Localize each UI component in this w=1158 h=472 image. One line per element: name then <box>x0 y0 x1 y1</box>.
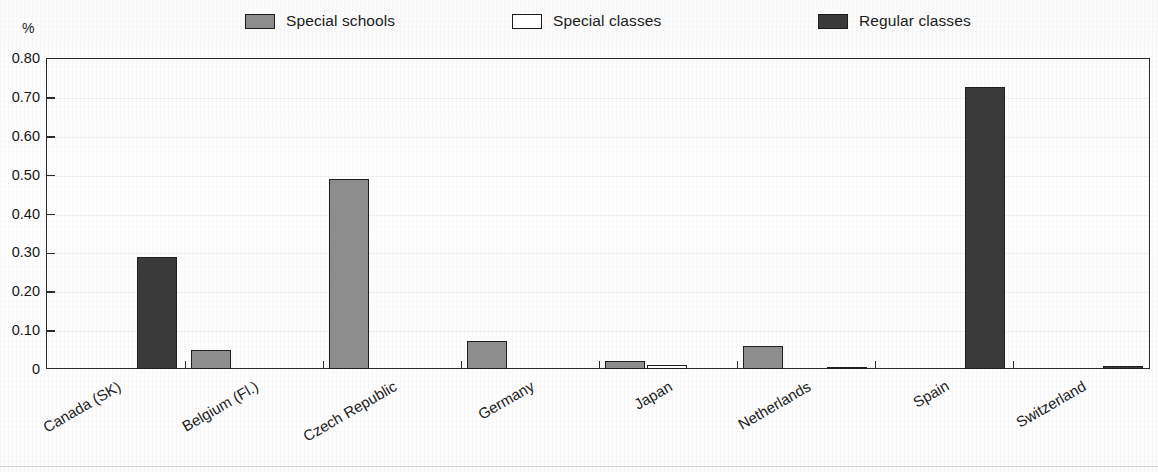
y-axis-tick <box>47 175 55 177</box>
y-axis-tick <box>47 97 55 99</box>
y-axis-tick-label: 0.40 <box>0 206 40 222</box>
chart-legend: Special schools Special classes Regular … <box>0 0 1158 42</box>
x-axis-label-canada-sk: Canada (SK) <box>40 377 124 435</box>
y-axis-unit-label: % <box>22 20 34 36</box>
legend-label-regular-classes: Regular classes <box>859 12 971 30</box>
x-axis-label-belgium-fl: Belgium (Fl.) <box>179 377 261 434</box>
x-axis-label-czech-republic: Czech Republic <box>300 377 399 444</box>
y-axis-tick <box>47 253 55 255</box>
x-axis-category-labels: Canada (SK)Belgium (Fl.)Czech RepublicGe… <box>46 369 1150 472</box>
y-axis-tick <box>47 136 55 138</box>
x-axis-tick <box>323 361 324 368</box>
footer-divider <box>0 466 1158 467</box>
legend-label-special-schools: Special schools <box>286 12 395 30</box>
legend-item-regular-classes: Regular classes <box>818 12 971 30</box>
gridline <box>47 215 1149 216</box>
gridline <box>47 98 1149 99</box>
y-axis-tick-label: 0 <box>0 361 40 377</box>
legend-item-special-schools: Special schools <box>245 12 395 30</box>
gridline <box>47 253 1149 254</box>
legend-swatch-special-classes <box>512 14 542 29</box>
x-axis-tick <box>185 361 186 368</box>
x-axis-label-japan: Japan <box>631 377 675 412</box>
gridline <box>47 292 1149 293</box>
x-axis-tick <box>1013 361 1014 368</box>
x-axis-tick <box>461 361 462 368</box>
gridlines <box>47 59 1149 368</box>
y-axis-tick-label: 0.80 <box>0 50 40 66</box>
y-axis-tick-label: 0.10 <box>0 322 40 338</box>
x-axis-label-germany: Germany <box>475 377 537 423</box>
y-axis-tick-label: 0.50 <box>0 167 40 183</box>
y-axis-tick-label: 0.20 <box>0 283 40 299</box>
x-axis-label-switzerland: Switzerland <box>1013 377 1089 430</box>
legend-item-special-classes: Special classes <box>512 12 661 30</box>
y-axis-tick <box>47 330 55 332</box>
gridline <box>47 176 1149 177</box>
plot-area <box>46 58 1150 369</box>
x-axis-label-netherlands: Netherlands <box>735 377 814 432</box>
gridline <box>47 137 1149 138</box>
gridline <box>47 331 1149 332</box>
x-axis-tick <box>737 361 738 368</box>
y-axis-tick <box>47 214 55 216</box>
legend-label-special-classes: Special classes <box>553 12 661 30</box>
x-axis-tick <box>875 361 876 368</box>
y-axis-tick-label: 0.60 <box>0 128 40 144</box>
y-axis-tick-label: 0.70 <box>0 89 40 105</box>
legend-swatch-regular-classes <box>818 14 848 29</box>
x-axis-tick <box>599 361 600 368</box>
x-axis-label-spain: Spain <box>910 377 952 411</box>
legend-swatch-special-schools <box>245 14 275 29</box>
y-axis-tick <box>47 291 55 293</box>
y-axis-tick-label: 0.30 <box>0 244 40 260</box>
chart-page: Special schools Special classes Regular … <box>0 0 1158 472</box>
